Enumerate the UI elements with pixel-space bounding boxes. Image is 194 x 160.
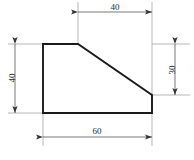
technical-drawing-canvas: 40 40 30 60 — [0, 0, 194, 160]
dimension-lines — [15, 12, 175, 137]
dimension-label-bottom-width: 60 — [93, 126, 103, 136]
extension-lines — [8, 2, 190, 146]
part-outline-polygon — [43, 44, 152, 113]
dimension-label-left-height: 40 — [7, 73, 17, 83]
dimension-drawing-svg: 40 40 30 60 — [0, 0, 194, 160]
dimension-label-top-width: 40 — [111, 2, 121, 12]
dimension-label-right-height: 30 — [167, 65, 177, 75]
